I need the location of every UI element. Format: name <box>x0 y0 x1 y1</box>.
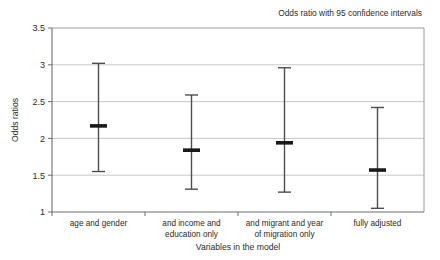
plot-area-background <box>52 28 424 212</box>
x-axis-category-label: of migration only <box>254 230 315 239</box>
x-axis-category-label: age and gender <box>70 219 128 228</box>
x-axis-category-labels-group: age and genderand income andeducation on… <box>70 219 402 239</box>
y-axis-tick-label: 1 <box>40 207 45 217</box>
x-axis-category-label: and income and <box>162 219 221 228</box>
x-axis-ticks-group <box>52 212 331 216</box>
y-axis-tick-label: 2.5 <box>32 97 45 107</box>
y-axis-tick-label: 2 <box>40 134 45 144</box>
y-axis-title: Odds ratios <box>10 98 20 142</box>
y-axis-tick-label: 3 <box>40 60 45 70</box>
x-axis-category-label: fully adjusted <box>354 219 402 228</box>
x-axis-category-label: education only <box>165 230 219 239</box>
odds-ratio-chart: Odds ratio with 95 confidence intervals … <box>0 0 440 260</box>
y-axis-tick-label: 3.5 <box>32 23 45 33</box>
y-axis-ticks-group: 11.522.533.5 <box>32 23 52 217</box>
x-axis-category-label: and migrant and year <box>246 219 324 228</box>
chart-canvas: Odds ratio with 95 confidence intervals … <box>0 0 440 260</box>
x-axis-title: Variables in the model <box>196 242 280 252</box>
y-axis-tick-label: 1.5 <box>32 171 45 181</box>
chart-legend-label: Odds ratio with 95 confidence intervals <box>278 8 422 18</box>
